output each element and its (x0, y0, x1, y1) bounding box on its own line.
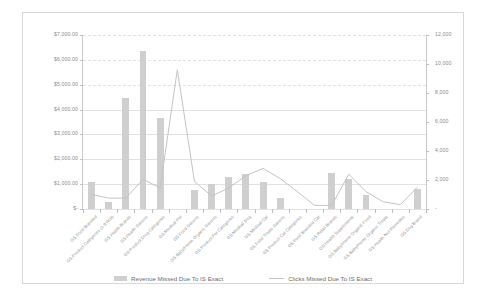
left-axis-tick-label: $7,000.00 (54, 32, 78, 37)
left-axis-tick-label: $5,000.00 (54, 82, 78, 87)
category-tickmark (306, 209, 307, 213)
category-tickmark (134, 209, 135, 213)
legend-label-clicks: Clicks Missed Due To IS Exact (288, 275, 372, 282)
chart-container: $-$1,000.00$2,000.00$3,000.00$4,000.00$5… (0, 0, 478, 301)
right-axis-tickmark (426, 122, 429, 123)
category-tickmark (340, 209, 341, 213)
category-tickmark (237, 209, 238, 213)
right-axis-tick-label: 12,000 (435, 32, 451, 37)
right-axis-tick-label: 2,000 (435, 177, 448, 182)
chart-legend: Revenue Missed Due To IS Exact Clicks Mi… (23, 275, 463, 282)
category-tickmark (83, 209, 84, 213)
left-axis-tick-label: $2,000.00 (54, 157, 78, 162)
legend-bar-swatch-icon (114, 276, 127, 281)
right-axis-tickmark (426, 35, 429, 36)
category-tickmark (426, 209, 427, 213)
legend-item-clicks[interactable]: Clicks Missed Due To IS Exact (269, 275, 372, 282)
right-axis-tickmark (426, 93, 429, 94)
right-axis-tickmark (426, 180, 429, 181)
left-axis-tick-label: $- (73, 206, 78, 211)
category-tickmark (289, 209, 290, 213)
category-tickmark (323, 209, 324, 213)
left-axis-tick-label: $4,000.00 (54, 107, 78, 112)
category-tickmark (357, 209, 358, 213)
legend-label-revenue: Revenue Missed Due To IS Exact (131, 275, 223, 282)
right-axis-tick-label: 10,000 (435, 61, 451, 66)
category-tickmark (117, 209, 118, 213)
category-tickmark (152, 209, 153, 213)
category-tickmark (186, 209, 187, 213)
left-axis-tick-label: $6,000.00 (54, 57, 78, 62)
line-path (92, 70, 418, 206)
left-axis-tick-label: $1,000.00 (54, 182, 78, 187)
category-tickmark (409, 209, 410, 213)
legend-item-revenue[interactable]: Revenue Missed Due To IS Exact (114, 275, 223, 282)
right-axis-tick-label: 8,000 (435, 90, 448, 95)
category-tickmark (100, 209, 101, 213)
right-axis-tick-label: - (435, 206, 437, 211)
right-axis-tick-label: 6,000 (435, 119, 448, 124)
category-tickmark (169, 209, 170, 213)
category-tickmark (375, 209, 376, 213)
category-tickmark (392, 209, 393, 213)
left-axis-tick-label: $3,000.00 (54, 132, 78, 137)
right-axis-tickmark (426, 64, 429, 65)
right-axis-tick-label: 4,000 (435, 148, 448, 153)
chart-plot-frame: $-$1,000.00$2,000.00$3,000.00$4,000.00$5… (22, 12, 464, 284)
line-series-group (83, 35, 426, 209)
category-tickmark (272, 209, 273, 213)
legend-line-swatch-icon (269, 278, 284, 279)
plot-area: $-$1,000.00$2,000.00$3,000.00$4,000.00$5… (83, 35, 426, 209)
category-tickmark (255, 209, 256, 213)
right-axis-tickmark (426, 151, 429, 152)
category-tickmark (220, 209, 221, 213)
category-tickmark (203, 209, 204, 213)
